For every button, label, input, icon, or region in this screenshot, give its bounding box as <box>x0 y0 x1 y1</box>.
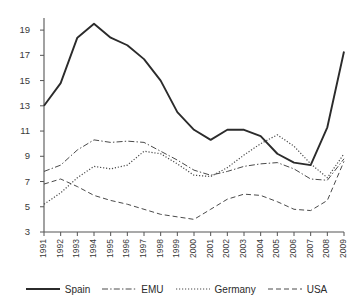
x-tick-label: 1996 <box>122 239 130 258</box>
x-tick-label: 1997 <box>139 239 147 258</box>
x-tick-label: 2008 <box>322 239 330 258</box>
x-tick-label: 1993 <box>72 239 80 258</box>
unemployment-rate-line-chart: 35791113151719 1991199219931994199519961… <box>0 0 352 304</box>
x-tick-label: 2000 <box>189 239 197 258</box>
y-tick-label: 19 <box>12 25 30 34</box>
x-tick-label: 1999 <box>172 239 180 258</box>
legend-swatch-emu <box>101 285 137 293</box>
y-tick-label: 3 <box>12 227 30 236</box>
y-tick-label: 17 <box>12 50 30 59</box>
y-tick-label: 15 <box>12 76 30 85</box>
y-tick-label: 5 <box>12 202 30 211</box>
x-tick-label: 2002 <box>222 239 230 258</box>
legend-swatch-germany <box>175 285 211 293</box>
x-tick-label: 1991 <box>39 239 47 258</box>
x-tick-label: 2007 <box>306 239 314 258</box>
chart-svg <box>38 16 346 238</box>
x-tick-label: 2001 <box>206 239 214 258</box>
legend-swatch-spain <box>25 285 61 293</box>
x-tick-label: 1992 <box>56 239 64 258</box>
x-tick-label: 1994 <box>89 239 97 258</box>
legend-item-germany[interactable]: Germany <box>175 284 256 295</box>
y-tick-label: 11 <box>12 126 30 135</box>
legend-item-usa[interactable]: USA <box>267 284 328 295</box>
legend-item-spain[interactable]: Spain <box>25 284 91 295</box>
x-tick-label: 2009 <box>339 239 347 258</box>
x-tick-label: 2003 <box>239 239 247 258</box>
chart-legend: SpainEMUGermanyUSA <box>0 278 352 300</box>
y-tick-label: 7 <box>12 177 30 186</box>
y-tick-label: 13 <box>12 101 30 110</box>
x-tick-label: 1998 <box>156 239 164 258</box>
legend-label: Germany <box>215 284 256 295</box>
x-tick-label: 2005 <box>272 239 280 258</box>
plot-area <box>38 16 346 238</box>
x-tick-label: 1995 <box>106 239 114 258</box>
legend-swatch-usa <box>267 285 303 293</box>
series-line-emu <box>44 140 344 180</box>
y-tick-label: 9 <box>12 151 30 160</box>
x-tick-label: 2004 <box>256 239 264 258</box>
series-line-spain <box>44 24 344 165</box>
legend-label: EMU <box>141 284 163 295</box>
legend-item-emu[interactable]: EMU <box>101 284 163 295</box>
legend-label: USA <box>307 284 328 295</box>
x-tick-label: 2006 <box>289 239 297 258</box>
series-line-germany <box>44 135 344 204</box>
legend-label: Spain <box>65 284 91 295</box>
